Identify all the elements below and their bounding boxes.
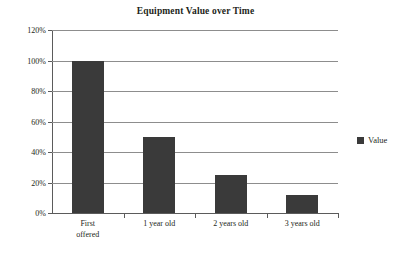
y-axis-tick-label: 0% — [2, 209, 46, 218]
y-axis-labels: 120%100%80%60%40%20%0% — [0, 30, 46, 214]
x-axis-category-label: 1 year old — [124, 219, 196, 230]
y-axis-tick-label: 120% — [2, 26, 46, 35]
y-axis-tick-label: 20% — [2, 178, 46, 187]
y-axis-tick — [48, 213, 52, 214]
legend-swatch-value — [357, 137, 364, 144]
x-axis-category-label-line: 2 years old — [195, 219, 267, 230]
x-axis-tick — [195, 214, 196, 218]
chart-legend: Value — [357, 135, 387, 145]
legend-label-value: Value — [368, 135, 387, 145]
y-axis-tick — [48, 91, 52, 92]
x-axis-category-label-line: offered — [52, 230, 124, 241]
chart-title: Equipment Value over Time — [52, 6, 339, 16]
x-axis-category-label-line: First — [52, 219, 124, 230]
y-axis-tick — [48, 122, 52, 123]
x-axis-tick — [338, 214, 339, 218]
y-axis-tick — [48, 30, 52, 31]
chart-container: Equipment Value over Time 120%100%80%60%… — [0, 0, 411, 257]
x-axis-tick — [124, 214, 125, 218]
bar-1-year-old — [143, 137, 175, 213]
x-axis-category-label-line: 1 year old — [124, 219, 196, 230]
y-axis-tick-label: 40% — [2, 148, 46, 157]
bar-3-years-old — [286, 195, 318, 213]
gridline-120 — [52, 30, 338, 31]
y-axis-tick-label: 80% — [2, 87, 46, 96]
y-axis-tick-label: 100% — [2, 56, 46, 65]
x-axis-category-label-line: 3 years old — [267, 219, 339, 230]
bar-first-offered — [72, 61, 104, 214]
plot-area — [52, 30, 338, 213]
y-axis-tick — [48, 152, 52, 153]
y-axis-tick-label: 60% — [2, 117, 46, 126]
x-axis-category-label: Firstoffered — [52, 219, 124, 240]
bar-2-years-old — [215, 175, 247, 213]
x-axis-category-label: 2 years old — [195, 219, 267, 230]
y-axis-tick — [48, 61, 52, 62]
x-axis-tick — [267, 214, 268, 218]
x-axis-category-label: 3 years old — [267, 219, 339, 230]
y-axis-tick — [48, 183, 52, 184]
